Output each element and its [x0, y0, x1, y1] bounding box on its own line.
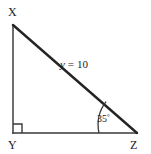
degree-symbol-icon: °	[107, 113, 110, 121]
vertex-label-z: Z	[130, 138, 137, 152]
vertex-label-y: Y	[8, 138, 17, 152]
side-length-equals: =	[68, 58, 74, 70]
vertex-label-x: X	[8, 5, 17, 19]
side-xz-hypotenuse-line	[13, 25, 137, 133]
side-length-value: 10	[77, 58, 89, 70]
side-length-label-xz: y=10	[59, 58, 89, 70]
angle-measure-value: 35	[97, 113, 107, 124]
right-angle-marker	[13, 124, 22, 133]
geometry-figure: X Y Z y=10 35°	[0, 0, 151, 154]
triangle-diagram-svg: X Y Z y=10 35°	[0, 0, 151, 154]
angle-measure-label-z: 35°	[97, 113, 110, 124]
side-length-variable: y	[59, 58, 65, 70]
